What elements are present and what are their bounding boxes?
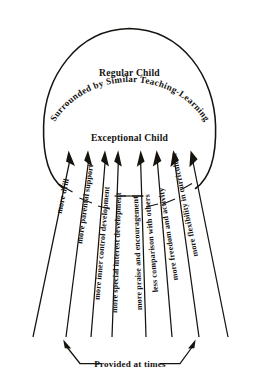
provided-at-times-bracket: Provided at times xyxy=(63,340,195,369)
arrow-label-6: less comparison with others xyxy=(142,194,160,293)
regular-child-label: Regular Child xyxy=(99,67,160,78)
curved-heading: Surrounded by Similar Teaching-Learning xyxy=(48,74,212,123)
arrow-more-praise-and-encouragement: more praise and encouragement xyxy=(131,150,146,337)
arrow-label-2: more parental support xyxy=(75,164,95,245)
arrow-label-4: more special interest development xyxy=(110,192,123,313)
arrow-more-special-interest-development: more special interest development xyxy=(110,150,126,337)
bracket-label: Provided at times xyxy=(94,359,166,369)
arrow-more-parental-support: more parental support xyxy=(66,150,95,337)
arrow-label-3: more inner control development xyxy=(93,186,112,300)
exceptional-child-label: Exceptional Child xyxy=(91,132,169,143)
inclusion-model-diagram: Surrounded by Similar Teaching-Learning … xyxy=(0,0,259,385)
arrow-more-inner-control-development: more inner control development xyxy=(91,150,111,337)
diagram-canvas: Surrounded by Similar Teaching-Learning … xyxy=(0,0,259,385)
arrow-more-flexibility-in-curriculum: more flexibility in curriculum xyxy=(169,151,228,338)
